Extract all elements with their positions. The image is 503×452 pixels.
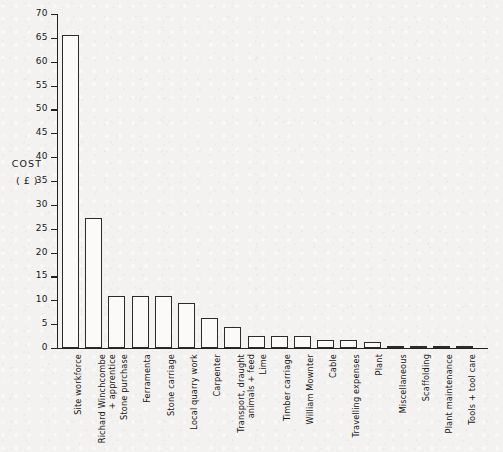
x-axis-label-line: Site workforce (74, 354, 84, 415)
x-axis-label-line: Local quarry work (190, 354, 200, 430)
bar (201, 318, 218, 348)
y-axis-tick (51, 253, 57, 254)
x-axis-category-label: Plant (375, 354, 385, 375)
x-axis-label-line: Stone purchase (120, 354, 130, 420)
x-axis-category-label: Tools + tool care (468, 354, 478, 425)
x-axis-label-line: Miscellaneous (399, 354, 409, 413)
bar (456, 346, 473, 348)
y-axis-tick-label: 65 (8, 32, 48, 42)
x-axis-category-label: Stone carriage (167, 354, 177, 416)
x-axis-label-line: Scaffolding (422, 354, 432, 401)
y-axis-tick (51, 109, 57, 110)
x-axis-category-label: Ferramenta (143, 354, 153, 403)
bar (410, 346, 427, 348)
bar (248, 336, 265, 348)
x-axis-label-line: Tools + tool care (468, 354, 478, 425)
y-axis-tick-label: 5 (8, 318, 48, 328)
y-axis-line (57, 14, 58, 349)
bar (132, 296, 149, 348)
bar (364, 342, 381, 348)
bar (178, 303, 195, 348)
x-axis-category-label: Scaffolding (422, 354, 432, 401)
x-axis-category-label: Stone purchase (120, 354, 130, 420)
y-axis-tick (51, 229, 57, 230)
bar (155, 296, 172, 348)
y-axis-tick-label: 10 (8, 294, 48, 304)
y-axis-tick-label: 55 (8, 80, 48, 90)
x-axis-label-line: Cable (329, 354, 339, 378)
x-axis-label-line: animals + feed (247, 354, 257, 433)
y-axis-tick-label: 15 (8, 270, 48, 280)
x-axis-label-line: Timber carriage (283, 354, 293, 421)
plot-area: 0510152025303540455055606570 (57, 14, 489, 348)
x-axis-category-label: Richard Winchcombe+ apprentice (98, 354, 117, 443)
x-axis-label-line: Lime (259, 354, 269, 374)
y-axis-tick (51, 14, 57, 15)
x-axis-category-label: Carpenter (213, 354, 223, 397)
x-axis-label-line: Stone carriage (167, 354, 177, 416)
x-axis-category-label: Travelling expenses (352, 354, 362, 437)
bar (433, 346, 450, 348)
x-axis-category-label: Cable (329, 354, 339, 378)
x-axis-category-label: Transport, draughtanimals + feed (237, 354, 256, 433)
y-axis-tick-label: 20 (8, 247, 48, 257)
y-axis-tick (51, 300, 57, 301)
y-axis-tick (51, 157, 57, 158)
x-axis-category-label: Local quarry work (190, 354, 200, 430)
y-axis-tick-label: 40 (8, 151, 48, 161)
x-axis-category-labels: Site workforceRichard Winchcombe+ appren… (57, 352, 497, 452)
x-axis-category-label: Plant maintenance (445, 354, 455, 433)
y-axis-tick-label: 35 (8, 175, 48, 185)
bar (294, 336, 311, 348)
bar (387, 346, 404, 348)
y-axis-tick-label: 30 (8, 199, 48, 209)
x-axis-category-label: William Mownter (306, 354, 316, 424)
bar (108, 296, 125, 348)
y-axis-tick (51, 181, 57, 182)
x-axis-category-label: Lime (259, 354, 269, 374)
x-axis-label-line: + apprentice (108, 354, 118, 443)
bar (317, 340, 334, 348)
y-axis-tick (51, 276, 57, 277)
y-axis-tick-label: 25 (8, 223, 48, 233)
x-axis-label-line: Travelling expenses (352, 354, 362, 437)
x-axis-label-line: Ferramenta (143, 354, 153, 403)
bar (62, 35, 79, 348)
y-axis-tick (51, 62, 57, 63)
y-axis-tick (51, 133, 57, 134)
y-axis-tick-label: 50 (8, 103, 48, 113)
bar (340, 340, 357, 348)
x-axis-category-label: Site workforce (74, 354, 84, 415)
y-axis-tick-label: 0 (8, 342, 48, 352)
x-axis-label-line: Plant (375, 354, 385, 375)
y-axis-tick (51, 205, 57, 206)
x-axis-label-line: William Mownter (306, 354, 316, 424)
y-axis-tick (51, 324, 57, 325)
y-axis-tick (51, 38, 57, 39)
x-axis-label-line: Plant maintenance (445, 354, 455, 433)
x-axis-category-label: Miscellaneous (399, 354, 409, 413)
y-axis-tick-label: 60 (8, 56, 48, 66)
y-axis-tick (51, 86, 57, 87)
bar-chart: COST ( £ ) 0510152025303540455055606570 … (0, 0, 503, 452)
bar (85, 218, 102, 348)
x-axis-line (57, 348, 488, 349)
bar (224, 327, 241, 348)
y-axis-tick-label: 45 (8, 127, 48, 137)
x-axis-category-label: Timber carriage (283, 354, 293, 421)
x-axis-label-line: Carpenter (213, 354, 223, 397)
y-axis-tick (51, 348, 57, 349)
y-axis-tick-label: 70 (8, 8, 48, 18)
bar (271, 336, 288, 348)
